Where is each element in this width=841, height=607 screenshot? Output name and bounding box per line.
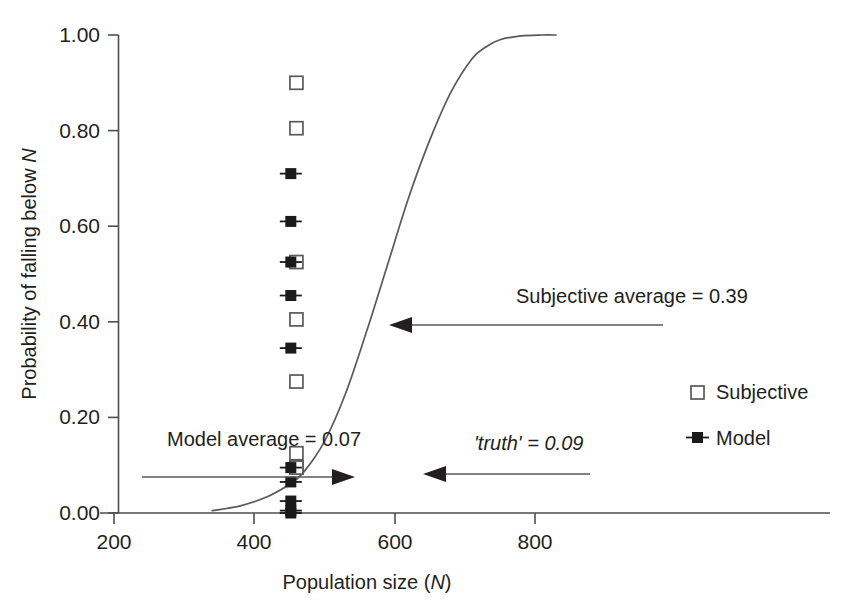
y-tick-label-0: 0.00 [59,501,100,524]
model-point-square [285,168,296,179]
subjective-point [290,375,303,388]
model-point-square [285,290,296,301]
legend-label-model: Model [716,427,770,449]
y-axis-title: Probability of falling below N [18,148,40,400]
x-tick-label-2: 600 [377,530,412,553]
x-axis-title-variable: N [430,571,445,593]
x-tick-label-0: 200 [96,530,131,553]
y-axis: 1.00 0.80 0.60 0.40 0.20 0.00 [59,23,118,524]
annotation-subjective-arrow-head [389,317,412,333]
model-point [280,168,302,179]
figure-container: 1.00 0.80 0.60 0.40 0.20 0.00 Probabilit… [0,0,841,607]
model-point [280,496,302,507]
x-axis: 200 400 600 800 [96,513,830,553]
legend-open-square-icon [691,386,704,399]
svg-text:Population size (N): Population size (N) [283,571,452,593]
model-point [280,508,302,519]
model-point-square [285,462,296,473]
y-axis-title-variable: N [18,148,40,163]
x-tick-label-3: 800 [517,530,552,553]
subjective-point [290,313,303,326]
model-point-square [285,343,296,354]
y-tick-label-2: 0.40 [59,310,100,333]
annotation-subjective-average-label: Subjective average = 0.39 [516,285,748,307]
y-tick-label-3: 0.60 [59,214,100,237]
model-point-square [285,496,296,507]
chart-legend: Subjective Model [686,381,808,449]
y-tick-label-5: 1.00 [59,23,100,46]
x-axis-title: Population size (N) [283,571,452,593]
annotation-truth-label: 'truth' = 0.09 [474,432,583,454]
model-point-square [285,216,296,227]
model-point-square [285,476,296,487]
x-tick-label-1: 400 [236,530,271,553]
y-axis-title-text: Probability of falling below [18,163,40,400]
svg-text:Probability of falling below N: Probability of falling below N [18,148,40,400]
y-tick-label-1: 0.20 [59,405,100,428]
annotation-subjective-average: Subjective average = 0.39 [389,285,748,333]
model-point [280,290,302,301]
annotation-model-arrow-head [332,469,355,485]
subjective-point [290,76,303,89]
x-axis-title-text: Population size ( [283,571,431,593]
subjective-point [290,122,303,135]
probability-curve-chart: 1.00 0.80 0.60 0.40 0.20 0.00 Probabilit… [0,0,841,607]
model-point-square [285,257,296,268]
legend-label-subjective: Subjective [716,381,808,403]
annotation-truth: 'truth' = 0.09 [423,432,590,482]
annotation-model-average: Model average = 0.07 [142,428,361,485]
legend-item-model[interactable]: Model [686,427,770,449]
y-tick-label-4: 0.80 [59,119,100,142]
model-point [280,343,302,354]
legend-item-subjective[interactable]: Subjective [691,381,808,403]
annotation-truth-arrow-head [423,466,446,482]
model-point [280,216,302,227]
series-subjective-points [290,76,303,474]
x-axis-title-tail: ) [445,571,452,593]
annotation-model-average-label: Model average = 0.07 [167,428,361,450]
model-point-square [285,508,296,519]
